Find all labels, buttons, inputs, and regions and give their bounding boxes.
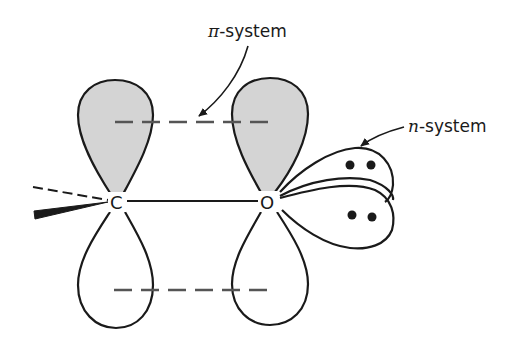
carbon-lower-p-lobe <box>78 212 153 328</box>
oxygen-lower-p-lobe <box>232 212 308 325</box>
carbon-upper-p-lobe <box>78 80 153 196</box>
n-system-arrow <box>361 127 404 146</box>
n-system-label: n-system <box>408 116 487 136</box>
oxygen-atom-label: O <box>260 192 274 213</box>
lone-pair-electron <box>348 211 357 220</box>
carbon-atom-label: C <box>110 192 123 213</box>
carbonyl-orbital-diagram: C O π-system n-system <box>0 0 521 346</box>
solid-wedge-bond <box>34 202 108 219</box>
lone-pair-electron <box>346 161 355 170</box>
lone-pair-electron <box>368 213 377 222</box>
dashed-wedge-bond <box>33 187 108 200</box>
upper-lone-pair-lobe-base <box>280 178 393 200</box>
pi-system-label: π-system <box>207 21 287 41</box>
lone-pair-electron <box>367 161 376 170</box>
oxygen-upper-p-lobe <box>232 78 308 196</box>
